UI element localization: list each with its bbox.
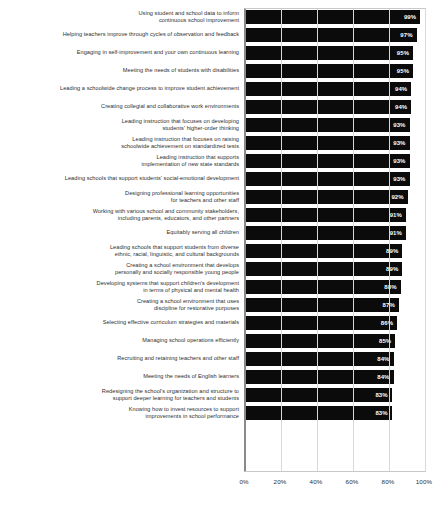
bar-value-label: 85% xyxy=(379,338,391,344)
bar-row: Using student and school data to inform … xyxy=(0,8,434,26)
bar-value-label: 99% xyxy=(404,14,416,20)
bar-value-label: 91% xyxy=(390,230,402,236)
bar-cell: 93% xyxy=(242,134,434,152)
bar-value-label: 95% xyxy=(397,68,409,74)
bar: 95% xyxy=(244,46,413,60)
category-label: Knowing how to invest resources to suppo… xyxy=(0,406,242,421)
bar: 94% xyxy=(244,100,411,114)
category-label: Leading schools that support students fr… xyxy=(0,244,242,259)
bar-value-label: 93% xyxy=(393,122,405,128)
category-label: Meeting the needs of English learners xyxy=(0,373,242,380)
bar-cell: 94% xyxy=(242,80,434,98)
bar-cell: 93% xyxy=(242,152,434,170)
bar: 93% xyxy=(244,136,410,150)
bar-row: Redesigning the school's organization an… xyxy=(0,386,434,404)
category-label: Recruiting and retaining teachers and ot… xyxy=(0,355,242,362)
bar-value-label: 83% xyxy=(375,410,387,416)
bar-cell: 94% xyxy=(242,98,434,116)
bar-cell: 99% xyxy=(242,8,434,26)
bar-cell: 84% xyxy=(242,350,434,368)
category-label: Helping teachers improve through cycles … xyxy=(0,31,242,38)
bar-value-label: 88% xyxy=(384,284,396,290)
category-label: Developing systems that support children… xyxy=(0,280,242,295)
bar-row: Working with various school and communit… xyxy=(0,206,434,224)
category-label: Creating a school environment that devel… xyxy=(0,262,242,277)
category-label: Selecting effective curriculum strategie… xyxy=(0,319,242,326)
bar-cell: 83% xyxy=(242,404,434,422)
bar-cell: 83% xyxy=(242,386,434,404)
bar-row: Creating collegial and collaborative wor… xyxy=(0,98,434,116)
bar-cell: 87% xyxy=(242,296,434,314)
bar: 84% xyxy=(244,370,394,384)
bar-row: Developing systems that support children… xyxy=(0,278,434,296)
bar-cell: 88% xyxy=(242,278,434,296)
bar-value-label: 92% xyxy=(391,194,403,200)
bar: 87% xyxy=(244,298,399,312)
bar-row: Leading schools that support students fr… xyxy=(0,242,434,260)
bar-cell: 95% xyxy=(242,44,434,62)
bar: 86% xyxy=(244,316,397,330)
bar-cell: 92% xyxy=(242,188,434,206)
bar-value-label: 93% xyxy=(393,158,405,164)
bar-value-label: 93% xyxy=(393,176,405,182)
bar: 93% xyxy=(244,154,410,168)
bar: 85% xyxy=(244,334,395,348)
category-label: Leading instruction that focuses on deve… xyxy=(0,118,242,133)
bar: 91% xyxy=(244,208,406,222)
bar-cell: 91% xyxy=(242,206,434,224)
bar-row: Leading a schoolwide change process to i… xyxy=(0,80,434,98)
bar-value-label: 94% xyxy=(395,104,407,110)
bar-row: Equitably serving all children91% xyxy=(0,224,434,242)
bar-row: Recruiting and retaining teachers and ot… xyxy=(0,350,434,368)
bar-cell: 85% xyxy=(242,332,434,350)
bar-row: Leading schools that support students' s… xyxy=(0,170,434,188)
x-axis-tick-label: 100% xyxy=(416,478,432,485)
bar-row: Leading instruction that supports implem… xyxy=(0,152,434,170)
bar: 99% xyxy=(244,10,420,24)
bar-cell: 84% xyxy=(242,368,434,386)
bar: 83% xyxy=(244,406,392,420)
bar-value-label: 84% xyxy=(377,356,389,362)
category-label: Equitably serving all children xyxy=(0,229,242,236)
bar-value-label: 89% xyxy=(386,248,398,254)
bar: 83% xyxy=(244,388,392,402)
bar-cell: 95% xyxy=(242,62,434,80)
category-label: Leading a schoolwide change process to i… xyxy=(0,85,242,92)
bar: 92% xyxy=(244,190,408,204)
bar-value-label: 95% xyxy=(397,50,409,56)
bar-row: Engaging in self-improvement and your ow… xyxy=(0,44,434,62)
category-label: Meeting the needs of students with disab… xyxy=(0,67,242,74)
bar-row: Managing school operations efficiently85… xyxy=(0,332,434,350)
bar-value-label: 93% xyxy=(393,140,405,146)
bar-row: Selecting effective curriculum strategie… xyxy=(0,314,434,332)
bar-value-label: 91% xyxy=(390,212,402,218)
category-label: Creating collegial and collaborative wor… xyxy=(0,103,242,110)
bar-row: Creating a school environment that devel… xyxy=(0,260,434,278)
chart-rows: Using student and school data to inform … xyxy=(0,8,434,422)
bar-row: Meeting the needs of English learners84% xyxy=(0,368,434,386)
bar-row: Meeting the needs of students with disab… xyxy=(0,62,434,80)
bar-cell: 93% xyxy=(242,170,434,188)
x-axis-tick-label: 60% xyxy=(346,478,359,485)
bar-value-label: 94% xyxy=(395,86,407,92)
bar: 91% xyxy=(244,226,406,240)
bar: 95% xyxy=(244,64,413,78)
bar-value-label: 86% xyxy=(381,320,393,326)
bar-cell: 89% xyxy=(242,260,434,278)
x-axis-tick-label: 0% xyxy=(239,478,248,485)
bar-value-label: 87% xyxy=(383,302,395,308)
bar-value-label: 84% xyxy=(377,374,389,380)
bar-row: Helping teachers improve through cycles … xyxy=(0,26,434,44)
x-axis-tick-label: 20% xyxy=(274,478,287,485)
bar: 89% xyxy=(244,244,402,258)
bar-cell: 97% xyxy=(242,26,434,44)
category-label: Creating a school environment that uses … xyxy=(0,298,242,313)
bar: 93% xyxy=(244,172,410,186)
bar-row: Leading instruction that focuses on rais… xyxy=(0,134,434,152)
category-label: Redesigning the school's organization an… xyxy=(0,388,242,403)
bar: 97% xyxy=(244,28,417,42)
bar-row: Designing professional learning opportun… xyxy=(0,188,434,206)
bar-cell: 89% xyxy=(242,242,434,260)
x-axis-tick-label: 40% xyxy=(310,478,323,485)
bar: 94% xyxy=(244,82,411,96)
